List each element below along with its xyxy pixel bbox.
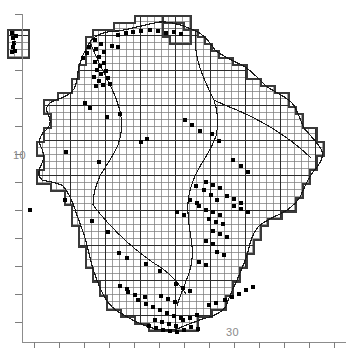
- record-marker: [230, 295, 234, 299]
- record-marker: [231, 158, 235, 162]
- record-marker: [159, 294, 163, 298]
- record-marker: [181, 286, 185, 290]
- record-marker: [207, 303, 211, 307]
- y-axis-tick-label-10: 10: [13, 149, 26, 161]
- record-marker: [94, 47, 98, 51]
- record-marker: [94, 84, 98, 88]
- record-marker: [246, 170, 250, 174]
- record-marker: [158, 308, 162, 312]
- record-marker: [182, 213, 186, 217]
- record-marker: [143, 295, 147, 299]
- record-marker: [87, 45, 91, 49]
- record-marker: [105, 115, 109, 119]
- record-marker: [11, 45, 15, 49]
- record-marker: [153, 318, 157, 322]
- record-marker: [64, 150, 68, 154]
- record-marker: [239, 207, 243, 211]
- record-marker: [88, 106, 92, 110]
- record-marker: [116, 33, 120, 37]
- record-marker: [251, 285, 255, 289]
- record-marker: [221, 222, 225, 226]
- record-marker: [188, 289, 192, 293]
- record-marker: [173, 300, 177, 304]
- record-marker: [210, 132, 214, 136]
- record-marker: [118, 112, 122, 116]
- record-marker: [214, 220, 218, 224]
- record-marker: [222, 253, 226, 257]
- record-marker: [183, 118, 187, 122]
- record-marker: [99, 42, 103, 46]
- record-marker: [136, 298, 140, 302]
- record-marker: [158, 269, 162, 273]
- record-marker: [139, 140, 143, 144]
- record-marker: [144, 302, 148, 306]
- record-marker: [10, 31, 14, 35]
- record-marker: [237, 292, 241, 296]
- record-marker: [211, 183, 215, 187]
- record-marker: [108, 82, 112, 86]
- record-marker: [189, 325, 193, 329]
- distribution-map-figure: 10 30: [0, 0, 348, 357]
- record-marker: [194, 184, 198, 188]
- record-marker: [188, 198, 192, 202]
- record-marker: [10, 50, 14, 54]
- record-marker: [154, 326, 158, 330]
- record-marker: [93, 60, 97, 64]
- record-marker: [175, 210, 179, 214]
- record-marker: [166, 297, 170, 301]
- record-marker: [239, 201, 243, 205]
- record-marker: [110, 44, 114, 48]
- record-marker: [207, 217, 211, 221]
- record-marker: [164, 31, 168, 35]
- record-marker: [232, 197, 236, 201]
- record-marker: [211, 229, 215, 233]
- record-marker: [195, 201, 199, 205]
- record-marker: [167, 322, 171, 326]
- record-marker: [97, 55, 101, 59]
- record-marker: [125, 256, 129, 260]
- x-axis-tick-label-30: 30: [226, 326, 239, 338]
- record-marker: [106, 76, 110, 80]
- record-marker: [139, 29, 143, 33]
- record-marker: [95, 68, 99, 72]
- record-marker: [218, 232, 222, 236]
- record-marker: [161, 328, 165, 332]
- record-marker: [198, 129, 202, 133]
- record-marker: [156, 29, 160, 33]
- record-marker: [215, 198, 219, 202]
- record-marker: [214, 301, 218, 305]
- record-marker: [196, 327, 200, 331]
- record-marker: [204, 239, 208, 243]
- map-canvas: [0, 0, 348, 357]
- record-marker: [97, 79, 101, 83]
- record-marker: [63, 198, 67, 202]
- record-marker: [83, 101, 87, 105]
- record-marker: [97, 160, 101, 164]
- record-marker: [117, 251, 121, 255]
- record-marker: [217, 139, 221, 143]
- record-marker: [244, 288, 248, 292]
- record-marker: [85, 51, 89, 55]
- record-marker: [106, 230, 110, 234]
- record-marker: [151, 305, 155, 309]
- record-marker: [223, 298, 227, 302]
- record-marker: [92, 75, 96, 79]
- record-marker: [165, 311, 169, 315]
- record-marker: [148, 28, 152, 32]
- record-marker: [118, 284, 122, 288]
- record-marker: [101, 83, 105, 87]
- record-marker: [147, 324, 151, 328]
- record-marker: [174, 282, 178, 286]
- x-axis-ticks: [34, 342, 334, 348]
- record-marker: [172, 30, 176, 34]
- record-marker: [90, 219, 94, 223]
- record-marker: [28, 208, 32, 212]
- record-marker: [81, 56, 85, 60]
- record-marker: [239, 164, 243, 168]
- record-marker: [202, 188, 206, 192]
- record-marker: [182, 328, 186, 332]
- record-marker: [204, 263, 208, 267]
- record-marker: [98, 64, 102, 68]
- record-marker: [102, 50, 106, 54]
- record-marker: [93, 38, 97, 42]
